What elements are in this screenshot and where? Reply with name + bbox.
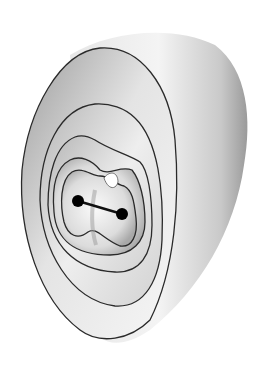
- diagram-canvas: [0, 0, 264, 373]
- nested-surface-figure: [0, 0, 264, 373]
- node-right: [116, 208, 128, 220]
- node-left: [72, 195, 84, 207]
